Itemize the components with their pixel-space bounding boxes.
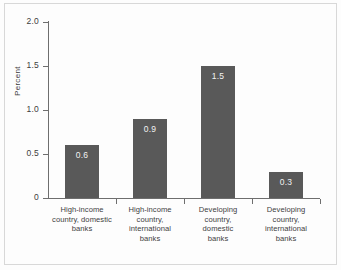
bar-value-label-3: 1.5 — [201, 71, 235, 81]
category-label-4-line-3: international — [252, 224, 320, 234]
y-tick-label-2.0: 2.0 — [27, 17, 39, 26]
bar-value-label-2: 0.9 — [133, 124, 167, 134]
bar-high-income-international[interactable]: 0.9 — [133, 119, 167, 198]
category-label-1-line-1: High-income — [48, 205, 116, 215]
category-label-2: High-income country, international banks — [116, 205, 184, 243]
y-tick-label-0.5: 0.5 — [27, 149, 39, 158]
bar-value-label-4: 0.3 — [269, 177, 303, 187]
category-label-3-line-4: banks — [184, 234, 252, 244]
category-label-2-line-4: banks — [116, 234, 184, 244]
y-axis-title: Percent — [13, 66, 22, 96]
category-label-2-line-1: High-income — [116, 205, 184, 215]
category-label-4: Developing country, international banks — [252, 205, 320, 243]
category-label-2-line-3: international — [116, 224, 184, 234]
category-label-1-line-3: banks — [48, 224, 116, 234]
bar-developing-domestic[interactable]: 1.5 — [201, 66, 235, 198]
x-tick-mark-2 — [184, 199, 185, 204]
y-tick-label-1.0: 1.0 — [27, 105, 39, 114]
category-label-3-line-2: country, — [184, 215, 252, 225]
category-label-1: High-income country, domestic banks — [48, 205, 116, 234]
category-label-4-line-1: Developing — [252, 205, 320, 215]
category-label-3: Developing country, domestic banks — [184, 205, 252, 243]
bar-value-label-1: 0.6 — [65, 150, 99, 160]
y-tick-label-1.5: 1.5 — [27, 61, 39, 70]
x-tick-mark-4 — [320, 199, 321, 204]
y-tick-label-0: 0 — [34, 193, 39, 202]
plot-area: 0.6 0.9 1.5 0.3 — [48, 22, 320, 198]
category-label-4-line-2: country, — [252, 215, 320, 225]
x-tick-mark-1 — [116, 199, 117, 204]
chart-figure: Percent 2.0 1.5 1.0 0.5 0 0.6 0.9 1.5 0.… — [0, 0, 341, 270]
category-label-3-line-3: domestic — [184, 224, 252, 234]
bar-high-income-domestic[interactable]: 0.6 — [65, 145, 99, 198]
category-label-2-line-2: country, — [116, 215, 184, 225]
category-label-4-line-4: banks — [252, 234, 320, 244]
bar-developing-international[interactable]: 0.3 — [269, 172, 303, 198]
category-label-3-line-1: Developing — [184, 205, 252, 215]
x-tick-mark-3 — [252, 199, 253, 204]
category-label-1-line-2: country, domestic — [48, 215, 116, 225]
